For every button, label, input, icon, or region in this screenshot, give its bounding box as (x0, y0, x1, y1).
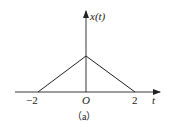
tick-label-2: 2 (132, 94, 138, 106)
figure-caption: （a） (72, 111, 96, 122)
triangle-signal-figure: x(t) t O −2 2 （a） (0, 0, 169, 140)
x-axis-label: t (152, 94, 156, 106)
origin-label: O (82, 94, 90, 106)
triangle-pulse-line (38, 56, 135, 92)
y-axis-label: x(t) (89, 10, 106, 23)
tick-label-neg2: −2 (26, 94, 38, 106)
